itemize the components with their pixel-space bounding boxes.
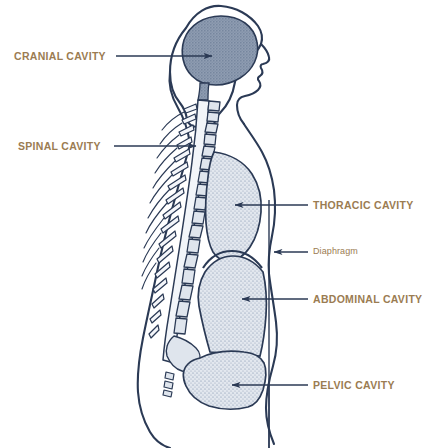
label-cranial-cavity: CRANIAL CAVITY	[14, 51, 106, 62]
label-abdominal-cavity: ABDOMINAL CAVITY	[313, 294, 422, 305]
thoracic-cavity-region	[206, 152, 262, 261]
label-pelvic-cavity: PELVIC CAVITY	[313, 380, 395, 391]
label-diaphragm: Diaphragm	[313, 247, 358, 256]
body-cavities-diagram: CRANIAL CAVITY SPINAL CAVITY THORACIC CA…	[0, 0, 431, 448]
label-spinal-cavity: SPINAL CAVITY	[18, 141, 101, 152]
vertebral-column	[142, 100, 220, 397]
abdominal-cavity-region	[198, 256, 266, 356]
cranial-cavity-region	[182, 16, 257, 100]
label-thoracic-cavity: THORACIC CAVITY	[313, 200, 414, 211]
pelvic-cavity-region	[184, 351, 266, 409]
